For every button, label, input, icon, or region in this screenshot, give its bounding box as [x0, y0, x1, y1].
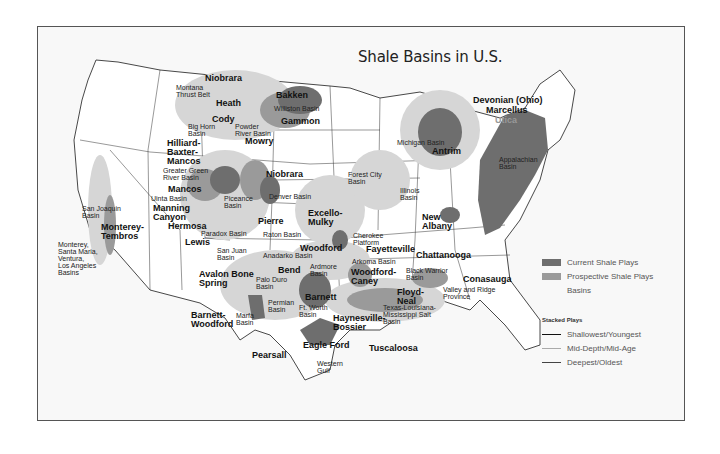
- label-haynesville-bossier: Haynesville- Bossier: [333, 314, 386, 332]
- legend-prospective-label: Prospective Shale Plays: [567, 272, 653, 281]
- label-new-albany: New Albany: [422, 213, 452, 231]
- label-hilliard-baxter-mancos: Hilliard- Baxter- Mancos: [167, 139, 201, 166]
- label-big-horn-basin: Big Horn Basin: [188, 123, 215, 137]
- label-western-gulf: Western Gulf: [317, 360, 343, 374]
- label-monterey-tembros: Monterey- Tembros: [101, 223, 144, 241]
- legend-deepest-label: Deepest/Oldest: [567, 358, 622, 367]
- label-lewis: Lewis: [185, 238, 210, 247]
- label-mowry: Mowry: [245, 137, 274, 146]
- label-excello-mulky: Excello- Mulky: [308, 209, 343, 227]
- label-black-warrior-basin: Black Warrior Basin: [406, 267, 448, 281]
- label-utica: Utica: [495, 116, 517, 125]
- label-eagle-ford: Eagle Ford: [303, 341, 350, 350]
- label-antrim: Antrim: [432, 147, 461, 156]
- label-monterey-basins: Monterey, Santa Maria, Ventura, Los Ange…: [58, 241, 98, 276]
- label-tuscaloosa: Tuscaloosa: [369, 344, 418, 353]
- label-paradox-basin: Paradox Basin: [201, 230, 247, 237]
- label-manning-canyon: Manning Canyon: [153, 204, 190, 222]
- label-arkoma-basin: Arkoma Basin: [352, 258, 396, 265]
- label-marcellus: Marcellus: [486, 106, 528, 115]
- label-permian-basin: Permian Basin: [268, 299, 294, 313]
- label-fayetteville: Fayetteville: [366, 245, 415, 254]
- label-chattanooga: Chattanooga: [416, 251, 471, 260]
- label-michigan-basin: Michigan Basin: [397, 139, 444, 146]
- label-pearsall: Pearsall: [252, 351, 287, 360]
- label-powder-river-basin: Powder River Basin: [235, 123, 271, 137]
- label-bakken: Bakken: [276, 91, 308, 100]
- label-williston-basin: Williston Basin: [274, 105, 320, 112]
- label-denver-basin: Denver Basin: [269, 193, 311, 200]
- label-devonian-ohio: Devonian (Ohio): [473, 96, 543, 105]
- label-illinois-basin: Illinois Basin: [400, 187, 419, 201]
- legend-basins-label: Basins: [567, 286, 591, 295]
- legend-line-shallowest: [542, 334, 561, 335]
- label-san-joaquin-basin: San Joaquin Basin: [82, 205, 121, 219]
- legend-swatch-current: [542, 259, 561, 266]
- label-conasauga: Conasauga: [463, 275, 512, 284]
- label-marfa-basin: Marfa Basin: [236, 312, 254, 326]
- label-niobrara-north: Niobrara: [205, 74, 242, 83]
- label-pierre: Pierre: [258, 217, 284, 226]
- label-niobrara-central: Niobrara: [266, 170, 303, 179]
- label-mancos: Mancos: [168, 185, 202, 194]
- label-palo-duro-basin: Palo Duro Basin: [256, 276, 287, 290]
- label-bend: Bend: [278, 266, 301, 275]
- label-anadarko-basin: Anadarko Basin: [263, 252, 312, 259]
- label-valley-ridge-province: Valley and Ridge Province: [443, 286, 495, 300]
- label-san-juan-basin: San Juan Basin: [217, 247, 247, 261]
- label-barnett-woodford: Barnett- Woodford: [191, 311, 233, 329]
- label-ardmore-basin: Ardmore Basin: [310, 263, 337, 277]
- map-title: Shale Basins in U.S.: [358, 48, 502, 66]
- label-forest-city-basin: Forest City Basin: [348, 171, 382, 185]
- legend-line-deepest: [542, 362, 561, 363]
- label-avalon-bone-spring: Avalon Bone Spring: [199, 270, 254, 288]
- label-woodford-caney: Woodford- Caney: [351, 268, 396, 286]
- legend-line-mid: [542, 348, 561, 349]
- label-piceance-basin: Piceance Basin: [224, 195, 253, 209]
- label-gammon: Gammon: [281, 117, 320, 126]
- label-heath: Heath: [216, 99, 241, 108]
- label-ft-worth-basin: Ft. Worth Basin: [299, 304, 328, 318]
- label-greater-green-river-basin: Greater Green River Basin: [163, 167, 208, 181]
- label-cherokee-platform: Cherokee Platform: [353, 232, 383, 246]
- label-uinta-basin: Uinta Basin: [151, 195, 187, 202]
- legend-shallowest-label: Shallowest/Youngest: [567, 330, 641, 339]
- legend-mid-label: Mid-Depth/Mid-Age: [567, 344, 636, 353]
- label-cody: Cody: [212, 115, 235, 124]
- label-barnett: Barnett: [305, 293, 337, 302]
- label-appalachian-basin: Appalachian Basin: [499, 156, 538, 170]
- label-raton-basin: Raton Basin: [263, 231, 301, 238]
- label-tx-la-ms-salt-basin: Texas-Louisiana- Mississippi Salt Basin: [383, 304, 436, 325]
- legend-swatch-prospective: [542, 273, 561, 280]
- label-montana-thrust-belt: Montana Thrust Belt: [176, 84, 210, 98]
- legend-stacked-header: Stacked Plays: [542, 317, 582, 323]
- legend-current-label: Current Shale Plays: [567, 258, 638, 267]
